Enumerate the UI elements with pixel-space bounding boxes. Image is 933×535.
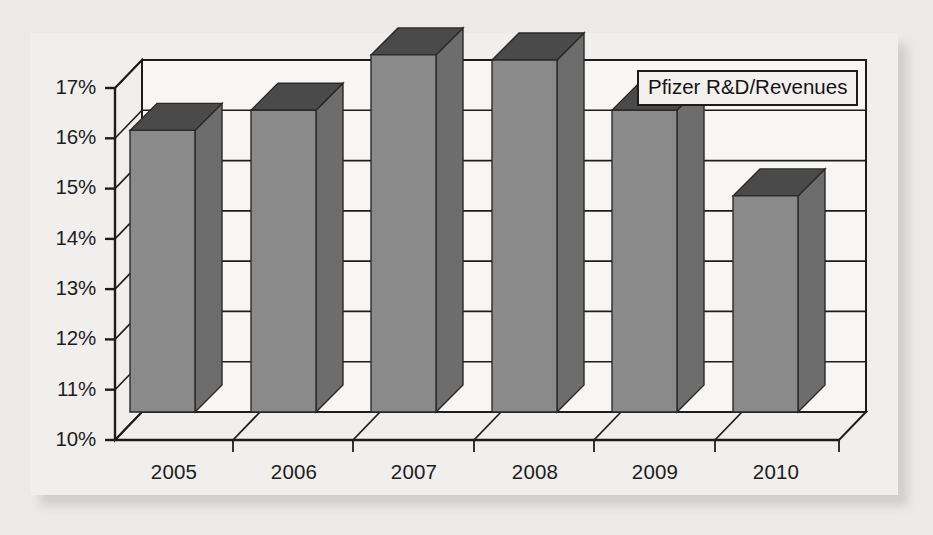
- x-axis-label-2009: 2009: [595, 462, 715, 483]
- bar-2007: [371, 28, 463, 412]
- bar-2010: [733, 169, 825, 412]
- y-axis-ticks: [105, 88, 115, 440]
- x-axis-label-2007: 2007: [354, 462, 474, 483]
- bar-2009-side: [677, 83, 704, 412]
- bar-2005: [130, 103, 222, 412]
- x-axis-label-2010: 2010: [716, 462, 836, 483]
- y-axis-label-13: 13%: [22, 278, 96, 299]
- bar-2008-side: [557, 33, 584, 412]
- bar-2005-front: [130, 130, 195, 412]
- bar-2010-side: [798, 169, 825, 412]
- y-axis-label-14: 14%: [22, 228, 96, 249]
- chart-screenshot: 17% 16% 15% 14% 13% 12% 11% 10% 2005 200…: [0, 0, 933, 535]
- y-axis-label-10: 10%: [22, 429, 96, 450]
- bar-2005-side: [195, 103, 222, 412]
- y-axis-label-15: 15%: [22, 177, 96, 198]
- x-axis-label-2008: 2008: [475, 462, 595, 483]
- bar-2007-front: [371, 55, 436, 412]
- bar-2006-front: [251, 110, 316, 412]
- bar-2009: [612, 83, 704, 412]
- y-axis-label-17: 17%: [22, 77, 96, 98]
- legend: Pfizer R&D/Revenues: [637, 70, 858, 106]
- bar-2008-front: [492, 60, 557, 412]
- x-axis-label-2006: 2006: [234, 462, 354, 483]
- bar-2006-side: [316, 83, 343, 412]
- bar-2008: [492, 33, 584, 412]
- bar-2009-front: [612, 110, 677, 412]
- bar-2007-side: [436, 28, 463, 412]
- y-axis-label-16: 16%: [22, 127, 96, 148]
- x-axis-label-2005: 2005: [114, 462, 234, 483]
- bar-2006: [251, 83, 343, 412]
- chart-floor: [115, 412, 866, 440]
- legend-label: Pfizer R&D/Revenues: [648, 75, 847, 98]
- bar-2010-front: [733, 196, 798, 412]
- y-axis-label-11: 11%: [22, 379, 96, 400]
- y-axis-label-12: 12%: [22, 328, 96, 349]
